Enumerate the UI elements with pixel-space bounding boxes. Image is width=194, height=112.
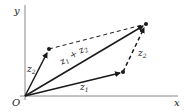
z2-label-sub: 2 bbox=[31, 68, 36, 75]
z2-translated-label: z2 bbox=[137, 48, 147, 59]
vector-z1 bbox=[25, 73, 120, 96]
z1-tip-dot bbox=[121, 70, 125, 74]
z2-label: z2 bbox=[26, 64, 36, 75]
sum-label: z1 + z2 bbox=[57, 42, 90, 68]
origin-label: O bbox=[12, 97, 20, 108]
dashed-top-side bbox=[49, 24, 146, 49]
z2-tip-dot bbox=[47, 47, 51, 51]
vector-diagram: y x O z2 z1 z2 z1 + z2 bbox=[0, 0, 194, 112]
z1-label: z1 bbox=[79, 82, 89, 93]
sum-tip-dot bbox=[144, 22, 148, 26]
y-axis-label: y bbox=[13, 5, 20, 16]
x-axis-label: x bbox=[174, 97, 180, 108]
z1-label-sub: 1 bbox=[85, 86, 89, 93]
z2t-label-sub: 2 bbox=[142, 52, 147, 59]
